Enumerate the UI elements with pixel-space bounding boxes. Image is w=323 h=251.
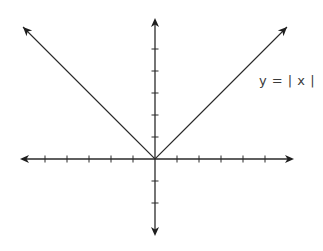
x-axis xyxy=(20,155,294,163)
abs-value-graph xyxy=(0,0,323,251)
function-label: y = | x | xyxy=(259,73,315,88)
y-axis xyxy=(151,18,159,236)
